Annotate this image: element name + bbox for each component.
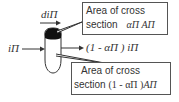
callout-bottom-prefix: section [74, 79, 106, 90]
callout-bottom-math-a: (1 - αΠ ) [108, 79, 143, 90]
di-arrowhead [56, 21, 61, 26]
callout-top-line2: section αΠ AΠ [86, 18, 164, 32]
callout-bottom-math-b: AΠ [143, 79, 156, 90]
outgoing-current-label: (1 - αΠ ) iΠ [86, 42, 138, 53]
callout-top-line1: Area of cross [86, 4, 164, 18]
dark-cross-section-region [45, 28, 61, 40]
callout-bottom-line2: section (1 - αΠ )AΠ [74, 78, 167, 92]
callout-pointer-top [57, 22, 82, 33]
callout-box-top: Area of cross section αΠ AΠ [82, 2, 168, 35]
differential-current-label: diΠ [41, 9, 58, 20]
outgoing-arrowhead [79, 46, 84, 51]
incoming-current-label: iΠ [8, 43, 19, 54]
callout-box-bottom: Area of cross section (1 - αΠ )AΠ [71, 62, 171, 95]
callout-top-math: αΠ AΠ [126, 19, 154, 30]
callout-top-prefix: section [86, 19, 118, 30]
incoming-arrowhead [40, 47, 45, 52]
callout-bottom-line1: Area of cross [81, 64, 167, 78]
